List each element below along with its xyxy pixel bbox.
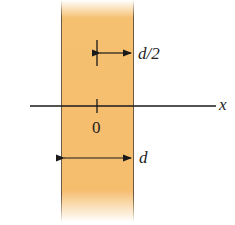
x-axis-label: x [219,96,227,113]
slab-diagram: d/2 x 0 d [0,0,235,225]
half-width-label: d/2 [138,45,160,62]
origin-label: 0 [92,119,101,136]
width-label: d [139,149,148,166]
diagram-lines [0,0,235,225]
